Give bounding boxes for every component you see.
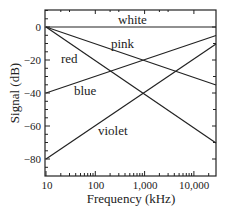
x-tick-label: 1,000 (133, 179, 158, 191)
series-label-pink: pink (111, 36, 135, 51)
series-label-red: red (61, 51, 78, 66)
x-axis-title: Frequency (kHz) (87, 191, 175, 206)
x-tick-labels: 10 100 1,000 10,000 (42, 179, 210, 191)
x-tick-label: 100 (88, 179, 105, 191)
x-tick-label: 10,000 (179, 179, 210, 191)
y-tick-label: 0 (36, 21, 42, 33)
series-label-blue: blue (74, 83, 97, 98)
y-axis-ticks (45, 11, 216, 168)
y-tick-labels: 0 −20 −40 −60 −80 (24, 21, 42, 165)
y-tick-label: −60 (24, 120, 42, 132)
series-label-white: white (118, 12, 147, 27)
y-axis-title: Signal (dB) (7, 63, 22, 123)
y-tick-label: −80 (24, 153, 42, 165)
series-label-violet: violet (98, 123, 128, 138)
noise-spectrum-chart: 0 −20 −40 −60 −80 10 100 1,000 10,000 Fr… (0, 0, 225, 211)
x-tick-label: 10 (42, 179, 54, 191)
y-tick-label: −40 (24, 87, 42, 99)
y-tick-label: −20 (24, 54, 42, 66)
